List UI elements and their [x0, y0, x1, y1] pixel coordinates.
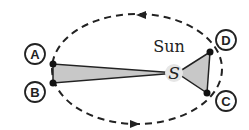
point-d — [207, 49, 214, 56]
label-c: C — [216, 91, 236, 111]
svg-text:A: A — [30, 47, 40, 62]
svg-text:C: C — [221, 94, 231, 109]
arrow-bottom-icon — [130, 120, 140, 128]
label-a: A — [25, 44, 45, 64]
label-b: B — [25, 82, 45, 102]
point-b — [50, 80, 57, 87]
arrow-top-icon — [136, 11, 146, 19]
orbit-diagram: S Sun A B D C — [0, 0, 249, 130]
point-a — [50, 61, 57, 68]
point-c — [204, 90, 211, 97]
label-d: D — [216, 30, 236, 50]
svg-text:D: D — [221, 33, 230, 48]
swept-area-ab — [53, 64, 177, 83]
sun-label: Sun — [153, 37, 185, 56]
svg-text:B: B — [30, 85, 39, 100]
sun-symbol: S — [168, 63, 180, 83]
